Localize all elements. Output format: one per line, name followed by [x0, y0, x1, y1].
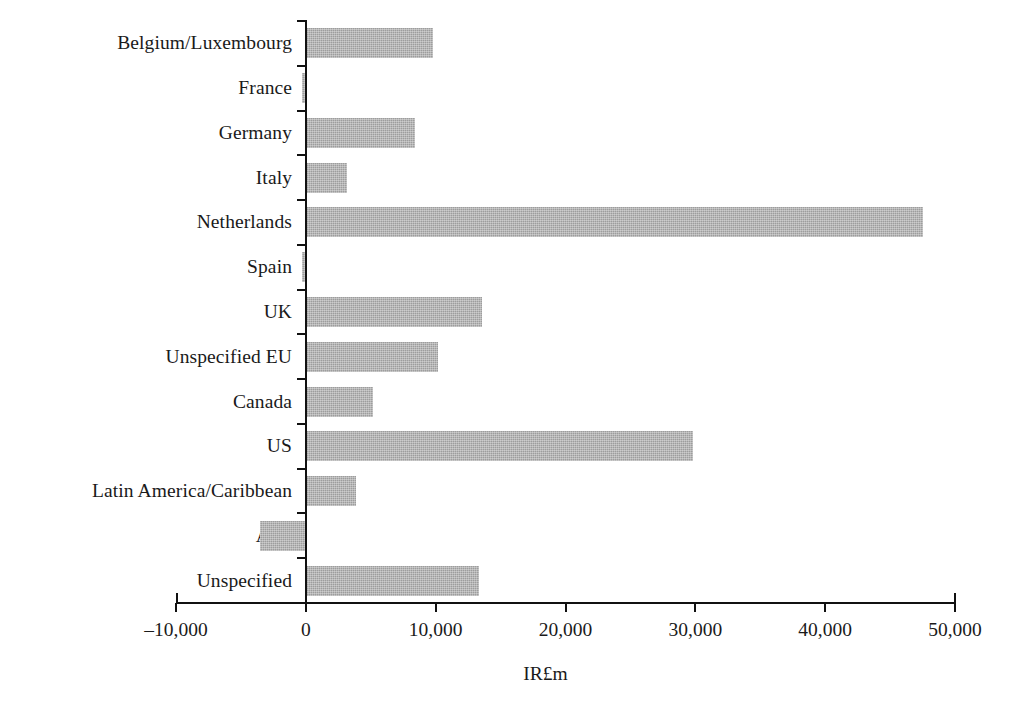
x-axis-tick	[175, 603, 177, 612]
x-axis-title-text: IR£m	[523, 663, 567, 684]
x-axis-tick-label: 50,000	[928, 620, 982, 640]
bar-unspecified	[306, 566, 479, 596]
y-axis-tick	[297, 199, 306, 201]
y-axis-tick	[297, 20, 306, 22]
bar-italy	[306, 163, 348, 193]
y-axis-tick	[297, 110, 306, 112]
y-axis-tick	[297, 557, 306, 559]
y-axis-tick	[297, 423, 306, 425]
bar-asia	[260, 521, 305, 551]
x-axis-tick-label: 0	[301, 620, 311, 640]
bar-germany	[306, 118, 415, 148]
plot-area	[176, 21, 955, 603]
y-axis-tick	[297, 378, 306, 380]
x-axis-tick	[435, 603, 437, 612]
y-axis-tick	[297, 244, 306, 246]
bar-netherlands	[306, 207, 923, 237]
y-axis-tick	[297, 602, 306, 604]
x-axis-tick	[565, 603, 567, 612]
y-axis-tick	[297, 468, 306, 470]
bar-canada	[306, 387, 374, 417]
y-axis-tick	[297, 512, 306, 514]
bar-us	[306, 431, 693, 461]
x-axis-tick	[824, 603, 826, 612]
bar-belgium-luxembourg	[306, 28, 433, 58]
x-axis-tick	[954, 603, 956, 612]
bar-chart: Belgium/Luxembourg France Germany Italy …	[0, 0, 1009, 713]
bar-unspecified-eu	[306, 342, 438, 372]
y-axis-tick	[297, 333, 306, 335]
x-axis-end-cap	[176, 593, 178, 603]
y-axis-tick	[297, 289, 306, 291]
x-axis-title: IR£m	[0, 664, 1009, 684]
y-axis-line	[305, 20, 307, 604]
x-axis-end-cap	[954, 593, 956, 603]
x-axis-tick-label: 40,000	[798, 620, 852, 640]
x-axis-tick-label: 30,000	[669, 620, 723, 640]
y-axis-tick	[297, 154, 306, 156]
y-axis-tick	[297, 65, 306, 67]
x-axis-tick-label: 10,000	[409, 620, 463, 640]
x-axis-tick	[694, 603, 696, 612]
bar-latin-america-caribbean	[306, 476, 357, 506]
x-axis-tick	[305, 603, 307, 612]
bar-uk	[306, 297, 483, 327]
x-axis-tick-label: 20,000	[539, 620, 593, 640]
x-axis-tick-label: –10,000	[144, 620, 207, 640]
